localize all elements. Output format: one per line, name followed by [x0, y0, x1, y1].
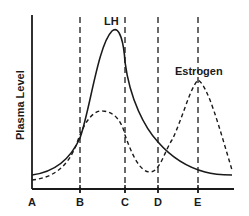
- reference-lines: [80, 17, 198, 193]
- lh-curve: [32, 30, 232, 175]
- tick-label-e: E: [194, 196, 201, 208]
- tick-label-d: D: [154, 196, 162, 208]
- tick-label-c: C: [121, 196, 129, 208]
- tick-label-b: B: [76, 196, 84, 208]
- lh-label: LH: [104, 15, 119, 27]
- tick-label-a: A: [28, 196, 36, 208]
- hormone-plasma-chart: Plasma Level LH Estrogen A B C D E: [0, 0, 249, 216]
- estrogen-label: Estrogen: [175, 65, 223, 77]
- y-axis-label: Plasma Level: [14, 70, 26, 140]
